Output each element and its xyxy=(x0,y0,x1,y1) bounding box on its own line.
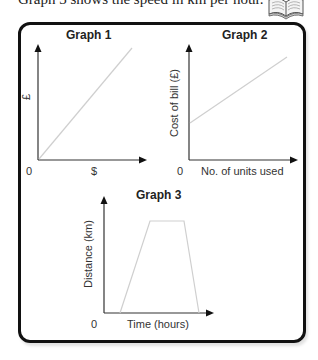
graph-3-plot xyxy=(0,0,318,360)
graph-3-y-label: Distance (km) xyxy=(82,214,94,294)
x-axis-arrow-icon xyxy=(206,310,214,317)
graph-3-origin-label: 0 xyxy=(91,318,97,330)
graph-3-x-label: Time (hours) xyxy=(127,318,189,330)
y-axis-arrow-icon xyxy=(101,196,108,204)
graph-3-line xyxy=(120,221,199,313)
